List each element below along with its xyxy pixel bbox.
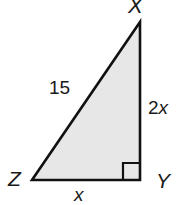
side-label-base-leg: x <box>74 185 84 204</box>
vertex-label-z: Z <box>8 168 21 189</box>
vertex-label-y: Y <box>156 170 170 191</box>
triangle-shape <box>32 22 140 180</box>
side-label-vertical-leg-coefficient: 2 <box>148 97 159 118</box>
side-label-hypotenuse: 15 <box>49 78 70 97</box>
side-label-vertical-leg: 2x <box>148 98 168 117</box>
vertex-label-x: X <box>128 0 143 17</box>
right-triangle-figure: X Y Z 15 2x x <box>0 0 183 205</box>
side-label-vertical-leg-variable: x <box>159 97 169 118</box>
